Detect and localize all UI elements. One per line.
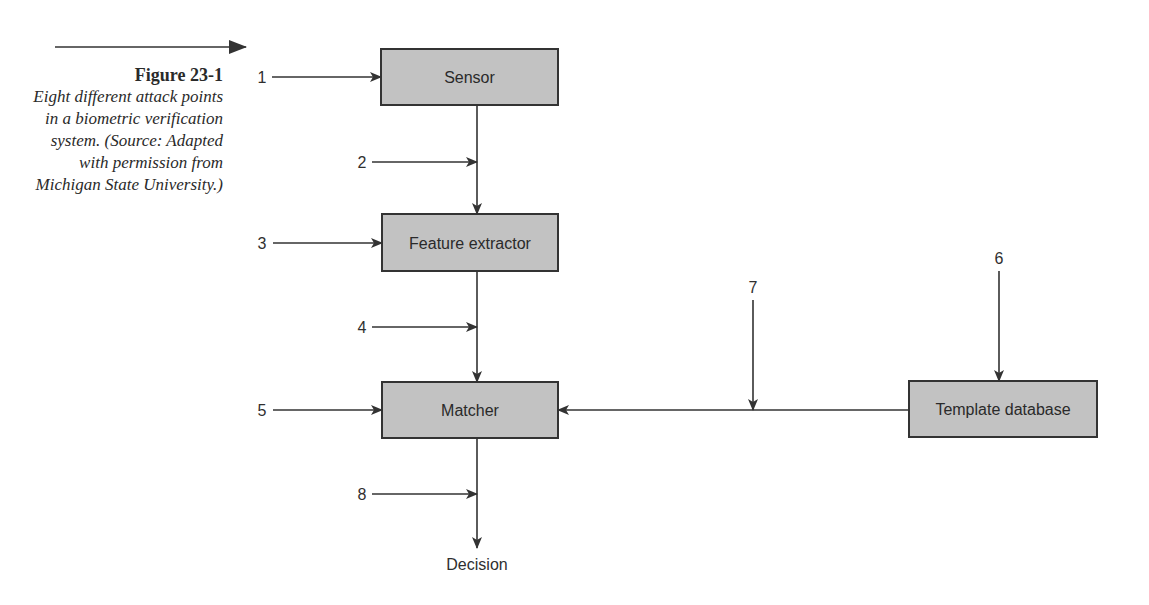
attack-label-6: 6: [995, 250, 1004, 267]
attack-label-4: 4: [358, 319, 367, 336]
sensor-box: Sensor: [381, 49, 558, 105]
sensor-label: Sensor: [444, 69, 495, 86]
attack-label-5: 5: [258, 402, 267, 419]
template-database-label: Template database: [935, 401, 1070, 418]
attack-label-2: 2: [358, 154, 367, 171]
attack-label-1: 1: [258, 69, 267, 86]
attack-label-3: 3: [258, 235, 267, 252]
matcher-label: Matcher: [441, 402, 499, 419]
template-database-box: Template database: [909, 381, 1097, 437]
attack-label-8: 8: [358, 486, 367, 503]
feature-extractor-box: Feature extractor: [382, 214, 558, 271]
decision-label: Decision: [446, 556, 507, 573]
attack-points-diagram: Sensor Feature extractor Matcher Templat…: [0, 0, 1149, 605]
feature-extractor-label: Feature extractor: [409, 235, 532, 252]
attack-label-7: 7: [749, 279, 758, 296]
matcher-box: Matcher: [382, 382, 558, 438]
